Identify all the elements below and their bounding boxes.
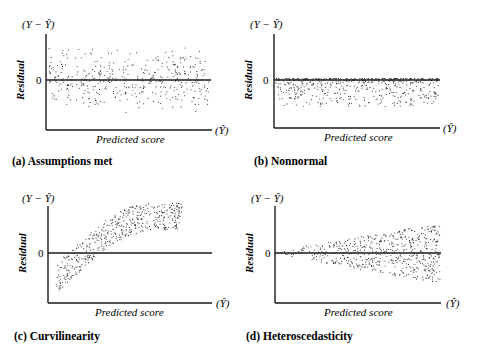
panel-caption: (b) Nonnormal [254,155,327,168]
zero-tick: 0 [263,74,269,86]
panel-b: (Y − Ŷ) 0 Residual Predicted score (Ŷ) (… [242,18,457,168]
x-axis-end-label: (Ŷ) [446,297,460,310]
panel-caption: (d) Heteroscedasticity [246,330,353,343]
y-axis-top-label: (Y − Ŷ) [251,192,284,205]
x-axis-end-label: (Ŷ) [216,297,230,310]
panel-c: (Y − Ŷ) 0 Residual Predicted score (Ŷ) (… [14,192,230,343]
x-axis-end-label: (Ŷ) [215,124,229,137]
zero-tick: 0 [38,247,44,259]
y-axis-top-label: (Y − Ŷ) [250,18,283,31]
x-axis-label: Predicted score [323,131,393,143]
panel-a: (Y − Ŷ) 0 Residual Predicted score (Ŷ) (… [12,18,229,168]
residual-plots-figure: (Y − Ŷ) 0 Residual Predicted score (Ŷ) (… [0,0,478,348]
scatter-points-b [275,78,439,107]
y-axis-top-label: (Y − Ŷ) [22,192,55,205]
scatter-points-d [281,226,440,283]
y-axis-top-label: (Y − Ŷ) [22,18,55,31]
scatter-points-c [56,203,183,291]
x-axis-label: Predicted score [94,306,164,318]
panel-caption: (c) Curvilinearity [14,330,100,343]
x-axis-end-label: (Ŷ) [443,122,457,135]
panel-caption: (a) Assumptions met [12,155,112,168]
y-axis-label: Residual [243,232,255,274]
zero-tick: 0 [265,247,271,259]
y-axis-label: Residual [242,59,254,101]
panel-d: (Y − Ŷ) 0 Residual Predicted score (Ŷ) (… [243,192,460,343]
x-axis-label: Predicted score [323,306,393,318]
y-axis-label: Residual [16,232,28,274]
x-axis-label: Predicted score [95,133,165,145]
zero-tick: 0 [36,74,42,86]
y-axis-label: Residual [14,59,26,101]
